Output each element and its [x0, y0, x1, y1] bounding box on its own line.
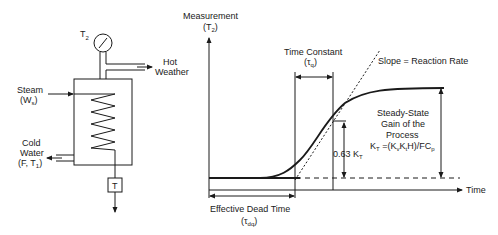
hot-label-2: Weather	[155, 67, 189, 77]
time-constant-label-2: (τq)	[304, 57, 317, 68]
steam-label-2: (Ws)	[20, 95, 38, 106]
diagram-canvas: T2 Hot Weather Steam (Ws) T Cold Water (…	[0, 0, 498, 235]
gain-label-2: Gain of the	[381, 119, 425, 129]
steam-label: Steam	[17, 85, 43, 95]
gain-formula: KT =(KvKtH)/FCp	[370, 141, 435, 152]
slope-tangent	[295, 50, 380, 180]
gauge-label: T2	[80, 29, 90, 41]
dead-time-label: Effective Dead Time	[210, 204, 290, 214]
slope-label: Slope = Reaction Rate	[378, 56, 468, 66]
trap-label: T	[112, 181, 118, 191]
hot-label: Hot	[163, 57, 178, 67]
time-constant-label: Time Constant	[284, 47, 343, 57]
response-chart: Measurement (T2) Time Slope = Reaction R…	[183, 11, 486, 227]
cold-label-3: (F, T1)	[18, 158, 42, 169]
pct-label: 0.63 KT	[333, 149, 363, 160]
dead-time-label-2: (τdq)	[241, 216, 257, 227]
gain-label-1: Steady-State	[377, 108, 429, 118]
cold-label: Cold	[22, 138, 41, 148]
heat-exchanger-schematic: T2 Hot Weather Steam (Ws) T Cold Water (…	[17, 29, 189, 212]
y-axis-label-2: (T2)	[203, 22, 218, 33]
tank-shell	[74, 79, 132, 165]
heating-coil	[91, 94, 115, 150]
x-axis-label: Time	[466, 185, 486, 195]
gain-label-3: Process	[386, 130, 419, 140]
y-axis-label: Measurement	[183, 11, 239, 21]
cold-label-2: Water	[20, 148, 44, 158]
